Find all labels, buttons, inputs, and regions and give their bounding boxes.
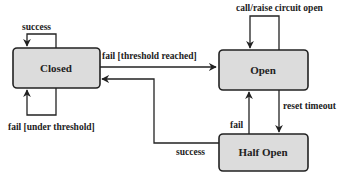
state-open: Open: [219, 50, 308, 90]
label-reset-timeout: reset timeout: [283, 101, 337, 111]
edge-closed-success-loop: [27, 34, 56, 48]
edge-half-open-to-closed: [102, 79, 219, 143]
label-call-raise-circuit-open: call/raise circuit open: [236, 3, 324, 13]
label-half-open-success: success: [176, 147, 205, 157]
edge-open-call-loop: [250, 16, 279, 50]
label-fail-threshold-reached: fail [threshold reached]: [102, 51, 197, 61]
state-open-label: Open: [250, 64, 276, 76]
label-closed-fail-under-threshold: fail [under threshold]: [8, 122, 95, 132]
state-closed: Closed: [13, 48, 100, 88]
state-half-open-label: Half Open: [238, 146, 287, 158]
label-closed-success: success: [22, 22, 51, 32]
edge-closed-fail-loop: [27, 88, 56, 115]
label-half-open-fail: fail: [230, 120, 244, 130]
state-closed-label: Closed: [40, 62, 72, 74]
circuit-breaker-diagram: success fail [under threshold] fail [thr…: [0, 0, 346, 180]
state-half-open: Half Open: [219, 134, 308, 171]
